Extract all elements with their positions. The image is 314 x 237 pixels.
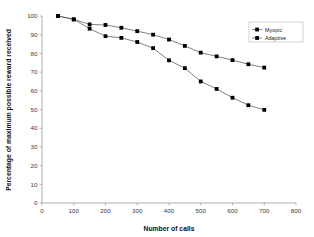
data-point-marker (246, 62, 250, 66)
x-tick-label: 200 (100, 207, 111, 214)
data-point-marker (104, 34, 108, 38)
legend-marker-icon (255, 28, 259, 32)
x-tick-label: 100 (69, 207, 80, 214)
data-point-marker (135, 29, 139, 33)
y-tick-label: 40 (31, 124, 38, 131)
legend-item-label: Adaptive (265, 35, 286, 41)
y-tick-label: 50 (31, 106, 38, 113)
data-point-marker (88, 27, 92, 31)
y-tick-label: 0 (34, 199, 38, 206)
legend: MyopicAdaptive (249, 22, 303, 42)
data-point-marker (246, 103, 250, 107)
data-point-marker (56, 14, 60, 18)
x-tick-label: 400 (164, 207, 175, 214)
data-point-marker (231, 96, 235, 100)
x-tick-label: 600 (227, 207, 238, 214)
x-tick-label: 800 (291, 207, 302, 214)
y-axis-title: Percentage of maximum possible reward re… (5, 29, 13, 191)
data-point-marker (262, 108, 266, 112)
data-point-marker (215, 54, 219, 58)
data-point-marker (215, 87, 219, 91)
data-point-marker (119, 36, 123, 40)
data-point-marker (183, 44, 187, 48)
x-tick-label: 700 (259, 207, 270, 214)
data-point-marker (135, 40, 139, 44)
data-point-marker (167, 38, 171, 42)
x-tick-label: 0 (40, 207, 44, 214)
y-tick-label: 70 (31, 68, 38, 75)
data-point-marker (199, 51, 203, 55)
data-point-marker (167, 58, 171, 62)
x-tick-label: 500 (196, 207, 207, 214)
y-tick-label: 100 (27, 12, 38, 19)
y-tick-label: 10 (31, 181, 38, 188)
chart-container: 0102030405060708090100 01002003004005006… (0, 0, 314, 237)
y-tick-label: 90 (31, 31, 38, 38)
y-tick-label: 20 (31, 162, 38, 169)
data-point-marker (104, 23, 108, 27)
data-point-marker (72, 17, 76, 21)
y-tick-label: 60 (31, 87, 38, 94)
x-axis-title: Number of calls (144, 225, 195, 232)
data-point-marker (88, 23, 92, 27)
x-tick-label: 300 (132, 207, 143, 214)
data-point-marker (119, 26, 123, 30)
y-tick-label: 80 (31, 50, 38, 57)
line-chart: 0102030405060708090100 01002003004005006… (0, 0, 314, 237)
legend-marker-icon (255, 36, 259, 40)
data-point-marker (231, 58, 235, 62)
data-point-marker (199, 80, 203, 84)
legend-item-label: Myopic (265, 27, 282, 33)
data-point-marker (151, 33, 155, 37)
data-point-marker (262, 66, 266, 70)
data-point-marker (151, 46, 155, 50)
y-tick-label: 30 (31, 143, 38, 150)
data-point-marker (183, 66, 187, 70)
